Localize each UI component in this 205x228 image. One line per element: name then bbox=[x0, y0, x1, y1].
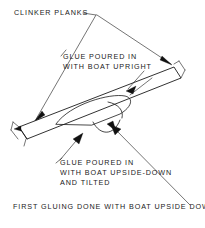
annotation-glue-upright-line-2: WITH BOAT UPRIGHT bbox=[63, 63, 152, 73]
annotation-glue-upright: GLUE POURED IN WITH BOAT UPRIGHT bbox=[63, 53, 152, 73]
hull-plank-upper bbox=[19, 67, 181, 139]
arrowhead-clinker-right bbox=[160, 56, 172, 65]
diagram-canvas: CLINKER PLANKS GLUE POURED IN WITH BOAT … bbox=[0, 0, 205, 228]
arrowhead-dimension-left bbox=[14, 126, 21, 131]
line-drawing bbox=[0, 0, 205, 228]
annotation-glue-upside-down: GLUE POURED IN WITH BOAT UPSIDE-DOWN AND… bbox=[60, 159, 172, 189]
label-clinker-planks: CLINKER PLANKS bbox=[14, 9, 88, 16]
caption-first-gluing: FIRST GLUING DONE WITH BOAT UPSIDE DOWN bbox=[13, 203, 205, 210]
annotation-glue-upside-down-line-3: AND TILTED bbox=[60, 179, 172, 189]
